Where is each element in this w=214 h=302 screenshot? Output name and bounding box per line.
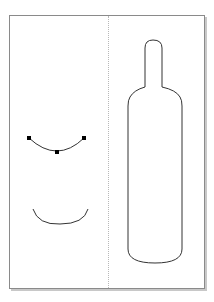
arc-shape[interactable]: [33, 209, 88, 224]
node-handle[interactable]: [82, 136, 86, 140]
node-handle[interactable]: [55, 150, 59, 154]
bottle-outline[interactable]: [128, 40, 182, 263]
node-handle[interactable]: [27, 136, 31, 140]
selected-arc[interactable]: [27, 136, 86, 154]
drawing-canvas[interactable]: [0, 0, 214, 302]
